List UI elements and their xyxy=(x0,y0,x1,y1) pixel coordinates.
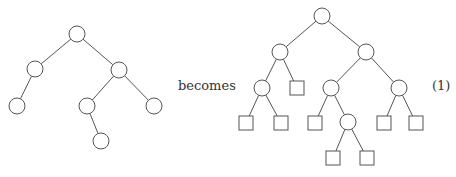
tree-edge xyxy=(352,129,364,151)
tree-edge xyxy=(328,21,360,47)
tree-edge xyxy=(387,95,396,116)
right-tree-internal-node xyxy=(391,80,407,96)
becomes-label: becomes xyxy=(178,78,236,93)
tree-edge xyxy=(371,58,393,82)
tree-edge xyxy=(266,59,277,81)
right-tree-internal-node xyxy=(323,80,339,96)
tree-edge xyxy=(402,95,412,116)
left-tree-internal-node xyxy=(79,98,95,114)
right-tree-internal-node xyxy=(358,44,374,60)
left-tree-internal-node xyxy=(69,26,85,42)
right-tree-internal-node xyxy=(340,114,356,130)
tree-edge xyxy=(125,76,149,101)
tree-edge xyxy=(336,129,345,151)
tree-edge xyxy=(335,95,345,115)
right-tree-internal-node xyxy=(254,80,270,96)
tree-edge xyxy=(83,39,113,65)
left-tree-internal-node xyxy=(27,61,43,77)
right-tree-external-node xyxy=(409,116,423,130)
left-tree-internal-node xyxy=(111,62,127,78)
left-tree-internal-node xyxy=(93,133,109,149)
tree-edge xyxy=(92,76,113,100)
equation-number: (1) xyxy=(432,78,450,93)
tree-edge xyxy=(337,58,361,83)
tree-edge xyxy=(266,95,277,116)
right-extended-binary-tree xyxy=(239,8,423,165)
right-tree-external-node xyxy=(308,116,322,130)
right-tree-external-node xyxy=(377,116,391,130)
right-tree-external-node xyxy=(326,151,340,165)
left-binary-tree xyxy=(9,26,162,149)
tree-edge xyxy=(90,113,98,133)
tree-edge xyxy=(283,59,293,81)
tree-edge xyxy=(41,39,71,64)
right-tree-external-node xyxy=(290,81,304,95)
left-tree-internal-node xyxy=(9,98,25,114)
tree-edge xyxy=(249,95,258,116)
right-tree-internal-node xyxy=(314,8,330,24)
tree-edge xyxy=(286,21,316,47)
right-tree-internal-node xyxy=(272,44,288,60)
tree-edge xyxy=(318,95,327,116)
right-tree-external-node xyxy=(274,116,288,130)
right-tree-external-node xyxy=(239,116,253,130)
tree-edge xyxy=(20,76,31,99)
right-tree-external-node xyxy=(360,151,374,165)
left-tree-internal-node xyxy=(146,98,162,114)
